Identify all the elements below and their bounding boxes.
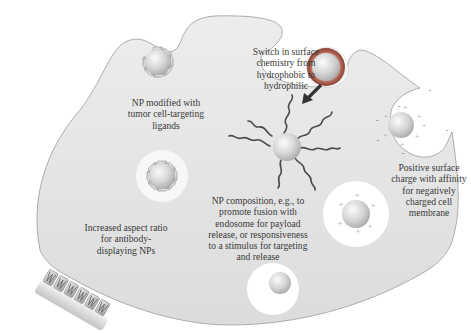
label-aspect-ratio: Increased aspect ratio for antibody- dis… <box>76 222 176 256</box>
ligand-np-middle <box>147 161 177 191</box>
svg-text:-: - <box>446 125 449 134</box>
svg-text:+: + <box>355 191 360 200</box>
svg-text:-: - <box>429 85 432 94</box>
svg-text:-: - <box>377 135 380 144</box>
svg-text:+: + <box>338 219 343 228</box>
nanoparticle-design-diagram: + + + + + + - - - - - - - + + + <box>0 0 471 333</box>
svg-text:-: - <box>376 115 379 124</box>
svg-text:+: + <box>356 227 361 236</box>
svg-text:+: + <box>384 112 389 121</box>
svg-text:+: + <box>415 132 420 141</box>
label-ligands: NP modified with tumor cell-targeting li… <box>116 97 216 131</box>
svg-text:+: + <box>403 103 408 112</box>
label-composition: NP composition, e.g., to promote fusion … <box>202 195 314 263</box>
svg-text:+: + <box>339 200 344 209</box>
np-in-endosome <box>269 272 291 294</box>
svg-text:+: + <box>417 112 422 121</box>
svg-text:-: - <box>423 120 426 129</box>
svg-text:-: - <box>398 101 401 110</box>
svg-text:+: + <box>371 201 376 210</box>
svg-text:-: - <box>402 148 405 157</box>
label-surface-charge: Positive surface charge with affinity fo… <box>384 162 471 218</box>
label-surface-chemistry: Switch in surface chemistry from hydroph… <box>236 46 336 91</box>
svg-text:+: + <box>383 131 388 140</box>
svg-text:+: + <box>368 222 373 231</box>
